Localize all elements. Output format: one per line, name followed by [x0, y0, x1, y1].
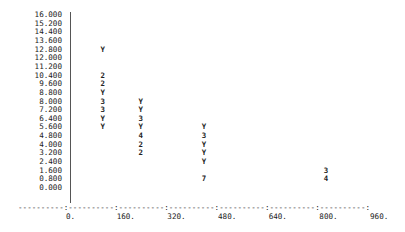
x-tick-label: 160. — [117, 213, 135, 221]
data-point: 3 — [99, 106, 107, 114]
data-point: Y — [99, 123, 107, 131]
data-point: Y — [99, 89, 107, 97]
y-tick-label: 13.600 — [0, 37, 62, 45]
y-tick-label: 16.000 — [0, 11, 62, 19]
y-tick-label: 7.200 — [0, 106, 62, 114]
x-axis-rule: ----------:----------:----------:-------… — [18, 204, 370, 212]
x-tick-label: 0. — [66, 213, 75, 221]
y-tick-label: 4.800 — [0, 132, 62, 140]
data-point: 4 — [322, 175, 330, 183]
x-tick-label: 800. — [319, 213, 337, 221]
character-scatter-plot: ----------:----------:----------:-------… — [0, 0, 405, 232]
x-tick-label: 480. — [218, 213, 236, 221]
y-tick-label: 2.400 — [0, 158, 62, 166]
data-point: 2 — [99, 80, 107, 88]
x-tick-label: 640. — [269, 213, 287, 221]
y-tick-label: 8.800 — [0, 89, 62, 97]
data-point: 7 — [200, 175, 208, 183]
data-point: 4 — [137, 132, 145, 140]
data-point: Y — [99, 46, 107, 54]
y-tick-label: 0.000 — [0, 184, 62, 192]
y-axis-line — [70, 12, 71, 203]
data-point: Y — [137, 106, 145, 114]
x-tick-label: 320. — [167, 213, 185, 221]
data-point: 3 — [200, 132, 208, 140]
y-tick-label: 11.200 — [0, 63, 62, 71]
y-tick-label: 9.600 — [0, 80, 62, 88]
x-tick-label: 960. — [370, 213, 388, 221]
data-point: 2 — [137, 149, 145, 157]
data-point: Y — [200, 158, 208, 166]
